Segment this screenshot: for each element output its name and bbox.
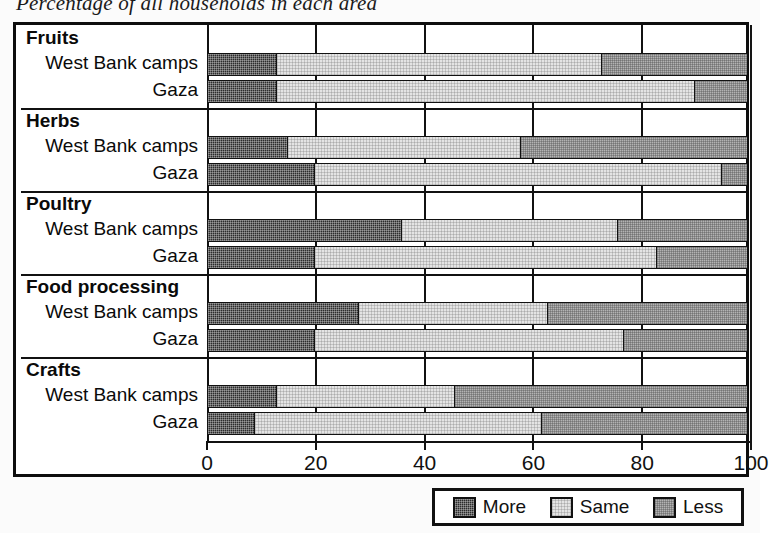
tick-40 <box>424 441 426 450</box>
bar-segment-more <box>207 80 278 103</box>
group-title: Poultry <box>26 193 91 215</box>
bar-segment-less <box>617 219 748 242</box>
stacked-bar <box>207 136 751 159</box>
row-label: West Bank camps <box>45 384 198 406</box>
bar-group: PoultryWest Bank campsGaza <box>16 191 746 274</box>
bar-segment-less <box>541 412 748 435</box>
bar-segment-less <box>656 246 748 269</box>
bar-segment-less <box>721 163 748 186</box>
tick-80 <box>641 441 643 450</box>
bar-segment-same <box>254 412 542 435</box>
stacked-bar <box>207 385 751 408</box>
bar-segment-less <box>694 80 748 103</box>
bar-segment-less <box>454 385 748 408</box>
legend-item-less[interactable]: Less <box>653 496 723 518</box>
group-separator <box>21 108 747 110</box>
bar-segment-more <box>207 385 278 408</box>
legend-item-same[interactable]: Same <box>550 496 630 518</box>
legend-label: Less <box>683 496 723 518</box>
legend-label: More <box>483 496 526 518</box>
group-title: Fruits <box>26 27 79 49</box>
row-label: West Bank camps <box>45 135 198 157</box>
group-separator <box>21 191 747 193</box>
bar-segment-same <box>358 302 548 325</box>
tick-label-20: 20 <box>304 451 327 475</box>
x-axis-line <box>207 441 751 443</box>
chart-frame: 020406080100 FruitsWest Bank campsGazaHe… <box>13 22 749 477</box>
bar-group: Food processingWest Bank campsGaza <box>16 274 746 357</box>
bar-segment-more <box>207 136 289 159</box>
legend-swatch-less <box>653 497 676 518</box>
bar-segment-more <box>207 53 278 76</box>
tick-0 <box>206 441 208 450</box>
bar-segment-same <box>287 136 521 159</box>
stacked-bar <box>207 329 751 352</box>
tick-60 <box>532 441 534 450</box>
legend-label: Same <box>580 496 630 518</box>
stacked-bar <box>207 53 751 76</box>
bar-group: HerbsWest Bank campsGaza <box>16 108 746 191</box>
bar-segment-more <box>207 246 316 269</box>
bar-segment-less <box>547 302 748 325</box>
group-title: Crafts <box>26 359 81 381</box>
legend-item-more[interactable]: More <box>453 496 526 518</box>
stacked-bar <box>207 163 751 186</box>
bar-group: FruitsWest Bank campsGaza <box>16 25 746 108</box>
row-label: West Bank camps <box>45 301 198 323</box>
page-title: Percentage of all households in each are… <box>16 0 377 16</box>
bar-segment-same <box>314 246 657 269</box>
stacked-bar <box>207 80 751 103</box>
tick-label-80: 80 <box>631 451 654 475</box>
bar-segment-more <box>207 219 403 242</box>
row-label: Gaza <box>153 245 198 267</box>
stacked-bar <box>207 219 751 242</box>
tick-label-0: 0 <box>201 451 213 475</box>
bar-segment-more <box>207 302 359 325</box>
bar-segment-same <box>276 53 602 76</box>
row-label: Gaza <box>153 79 198 101</box>
row-label: Gaza <box>153 162 198 184</box>
row-label: West Bank camps <box>45 52 198 74</box>
row-label: West Bank camps <box>45 218 198 240</box>
bar-segment-same <box>314 163 722 186</box>
legend-swatch-same <box>550 497 573 518</box>
tick-20 <box>315 441 317 450</box>
row-label: Gaza <box>153 411 198 433</box>
bar-segment-same <box>276 385 456 408</box>
chart-legend: MoreSameLess <box>432 488 744 526</box>
bar-segment-more <box>207 412 256 435</box>
bar-segment-same <box>401 219 619 242</box>
bar-segment-same <box>314 329 624 352</box>
tick-label-40: 40 <box>413 451 436 475</box>
tick-label-100: 100 <box>733 451 768 475</box>
stacked-bar <box>207 246 751 269</box>
bar-segment-more <box>207 163 316 186</box>
stacked-bar <box>207 302 751 325</box>
bar-segment-less <box>623 329 748 352</box>
bar-segment-less <box>520 136 748 159</box>
stacked-bar <box>207 412 751 435</box>
group-separator <box>21 357 747 359</box>
group-title: Food processing <box>26 276 179 298</box>
bar-segment-more <box>207 329 316 352</box>
bar-segment-same <box>276 80 695 103</box>
row-label: Gaza <box>153 328 198 350</box>
tick-label-60: 60 <box>522 451 545 475</box>
bar-group: CraftsWest Bank campsGaza <box>16 357 746 440</box>
plot-area: 020406080100 FruitsWest Bank campsGazaHe… <box>16 25 746 474</box>
group-title: Herbs <box>26 110 80 132</box>
bar-segment-less <box>601 53 748 76</box>
legend-swatch-more <box>453 497 476 518</box>
tick-100 <box>750 441 752 450</box>
